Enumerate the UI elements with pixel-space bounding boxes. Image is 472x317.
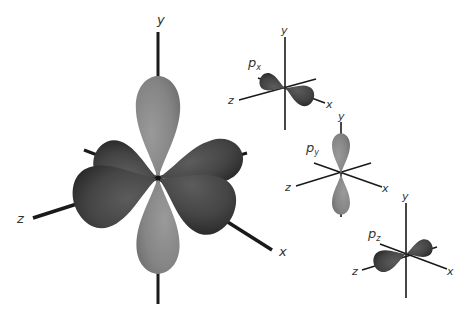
px-axis-label-z: z [227,94,234,107]
pz-axis-label-x: x [446,265,454,278]
pz-subscript: z [375,234,381,243]
px-axis-label-x: x [325,98,333,111]
axis-label-x: x [278,244,287,259]
py-axis-label-y: y [337,110,345,123]
axis-label-y: y [156,12,165,27]
combined-orbital: y z x [16,12,287,304]
pz-orbital: y z x pz [351,190,454,298]
py-subscript: y [313,148,319,157]
px-lobe-negative [257,71,288,96]
px-label: px [247,55,261,72]
pz-axis-label-y: y [401,190,409,203]
py-axis-z [296,163,371,186]
py-label: py [305,140,319,157]
px-orbital: y x z px [227,24,333,130]
px-subscript: x [255,63,261,72]
py-axis-label-x: x [381,182,389,195]
pz-axis-label-z: z [351,265,358,278]
py-axis-x [314,163,382,187]
pz-label: pz [367,226,381,243]
py-lobe-positive [332,133,350,174]
py-axis-label-z: z [284,181,291,194]
nucleus [156,176,161,181]
axis-label-z: z [16,211,25,226]
px-axis-label-y: y [280,24,288,37]
py-orbital: y z x py [284,110,389,217]
p-orbitals-diagram: y z x y x z px y z x py [0,0,472,317]
py-lobe-negative [332,174,350,215]
